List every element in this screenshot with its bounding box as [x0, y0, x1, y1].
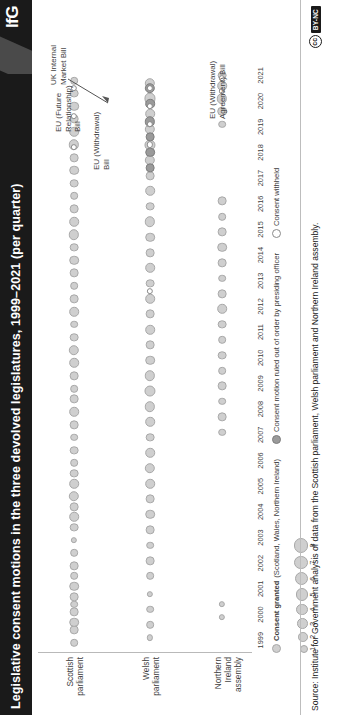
bubble-granted [146, 556, 155, 565]
bubble-granted [218, 197, 227, 206]
bubble-granted [145, 263, 155, 273]
bubble-granted [70, 561, 79, 570]
year-tick-2014: 2014 [256, 247, 265, 263]
bubble-granted [70, 469, 79, 478]
year-tick-2004: 2004 [256, 504, 265, 520]
category-label-2: Northern Ireland assembly [213, 657, 243, 715]
bubble-granted [69, 307, 79, 317]
bubble-granted [218, 412, 227, 421]
bubble-granted [70, 608, 79, 617]
bubble-granted [70, 639, 78, 647]
cc-by-nc-badge: BY-NC [311, 6, 321, 33]
legend-granted-label: Consent granted [272, 581, 281, 641]
legend-granted-scope: (Scotland, Wales, Northern Ireland) [272, 459, 281, 578]
bubble-ruled [146, 133, 155, 142]
chart-plot-area: Scottish parliamentWelsh parliamentNorth… [32, 0, 290, 715]
bubble-granted [218, 336, 226, 344]
bubble-granted [144, 386, 155, 397]
bubble-granted [70, 420, 79, 429]
bubble-granted [70, 243, 79, 252]
annotation-eu-future-relationship: EU (Future Relationship) Bill [54, 85, 83, 132]
bubble-granted [69, 512, 79, 522]
bubble-granted [146, 621, 154, 629]
bubble-granted [70, 333, 79, 342]
bubble-granted [69, 491, 79, 501]
bubble-granted [69, 358, 79, 368]
bubble-granted [146, 606, 154, 614]
year-tick-2016: 2016 [256, 196, 265, 212]
bubble-granted [70, 192, 78, 200]
bubble-granted [70, 371, 79, 380]
logo-text: IfG [3, 6, 23, 28]
bubble-granted [145, 356, 155, 366]
bubble-granted [70, 77, 78, 85]
bubble-granted [218, 228, 227, 237]
bubble-granted [146, 279, 155, 288]
x-axis-year-ticks: 1999200020012002200320042005200620072008… [256, 69, 270, 653]
bubble-granted [70, 294, 79, 303]
year-tick-2001: 2001 [256, 581, 265, 597]
bubble-granted [145, 479, 155, 489]
year-tick-2002: 2002 [256, 555, 265, 571]
year-tick-2000: 2000 [256, 606, 265, 622]
figure-footer: Source: Institute for Government analysi… [300, 0, 337, 715]
bubble-granted [69, 407, 79, 417]
bubble-granted [145, 448, 155, 458]
bubble-granted [145, 325, 155, 335]
legend-ruled-label: Consent motion ruled out of order by pre… [272, 253, 281, 432]
bubble-granted [217, 243, 227, 253]
bubble-granted [147, 634, 153, 640]
bubble-granted [218, 213, 226, 221]
bubble-granted [145, 463, 155, 473]
bubble-granted [146, 341, 155, 350]
bubble-granted [70, 395, 79, 404]
year-tick-2019: 2019 [256, 119, 265, 135]
category-label-1: Welsh parliament [141, 657, 161, 715]
legend-ruled-swatch-icon [272, 435, 281, 444]
annotation-eu-withdrawal: EU (Withdrawal) Bill [92, 112, 111, 170]
bubble-granted [69, 479, 79, 489]
bubble-granted [69, 217, 79, 227]
figure-title-bar: Legislative consent motions in the three… [0, 0, 32, 715]
bubble-granted [70, 385, 78, 393]
year-tick-2006: 2006 [256, 452, 265, 468]
bubble-ruled [146, 163, 155, 172]
bubble-granted [70, 523, 79, 532]
bubble-granted [146, 525, 155, 534]
year-tick-2009: 2009 [256, 375, 265, 391]
bubble-granted [70, 446, 79, 455]
bubble-granted [145, 294, 155, 304]
bubble-granted [70, 205, 79, 214]
bubble-granted [218, 367, 226, 375]
bubble-granted [70, 592, 79, 601]
year-tick-2005: 2005 [256, 478, 265, 494]
bubble-granted [145, 186, 155, 196]
bubble-granted [219, 601, 225, 607]
bubble-granted [218, 274, 226, 282]
bubble-granted [70, 179, 79, 188]
source-note: Source: Institute for Government analysi… [310, 223, 320, 711]
bubble-granted [70, 549, 78, 557]
bubble-granted [145, 401, 155, 411]
bubble-granted [69, 255, 79, 265]
ifg-logo: IfG [0, 0, 32, 74]
bubble-granted [69, 229, 79, 239]
cc-circle-icon: cc [309, 35, 322, 48]
year-tick-2013: 2013 [256, 273, 265, 289]
bubble-granted [69, 345, 79, 355]
bubble-granted [70, 502, 79, 511]
y-axis-line [38, 652, 252, 653]
legend-granted-swatch-icon [272, 644, 281, 653]
figure-stage: Legislative consent motions in the three… [0, 0, 337, 715]
bubble-granted [217, 304, 227, 314]
year-tick-2008: 2008 [256, 401, 265, 417]
bubble-granted [69, 617, 79, 627]
bubble-granted [146, 202, 155, 211]
creative-commons-license: cc BY-NC [309, 6, 322, 48]
bubble-granted [70, 572, 78, 580]
bubble-granted [218, 320, 227, 329]
year-tick-2010: 2010 [256, 350, 265, 366]
bubble-granted [146, 171, 155, 180]
bubble-granted [70, 153, 79, 162]
annotation-uk-internal-market: UK Internal Market Bill [49, 45, 68, 85]
